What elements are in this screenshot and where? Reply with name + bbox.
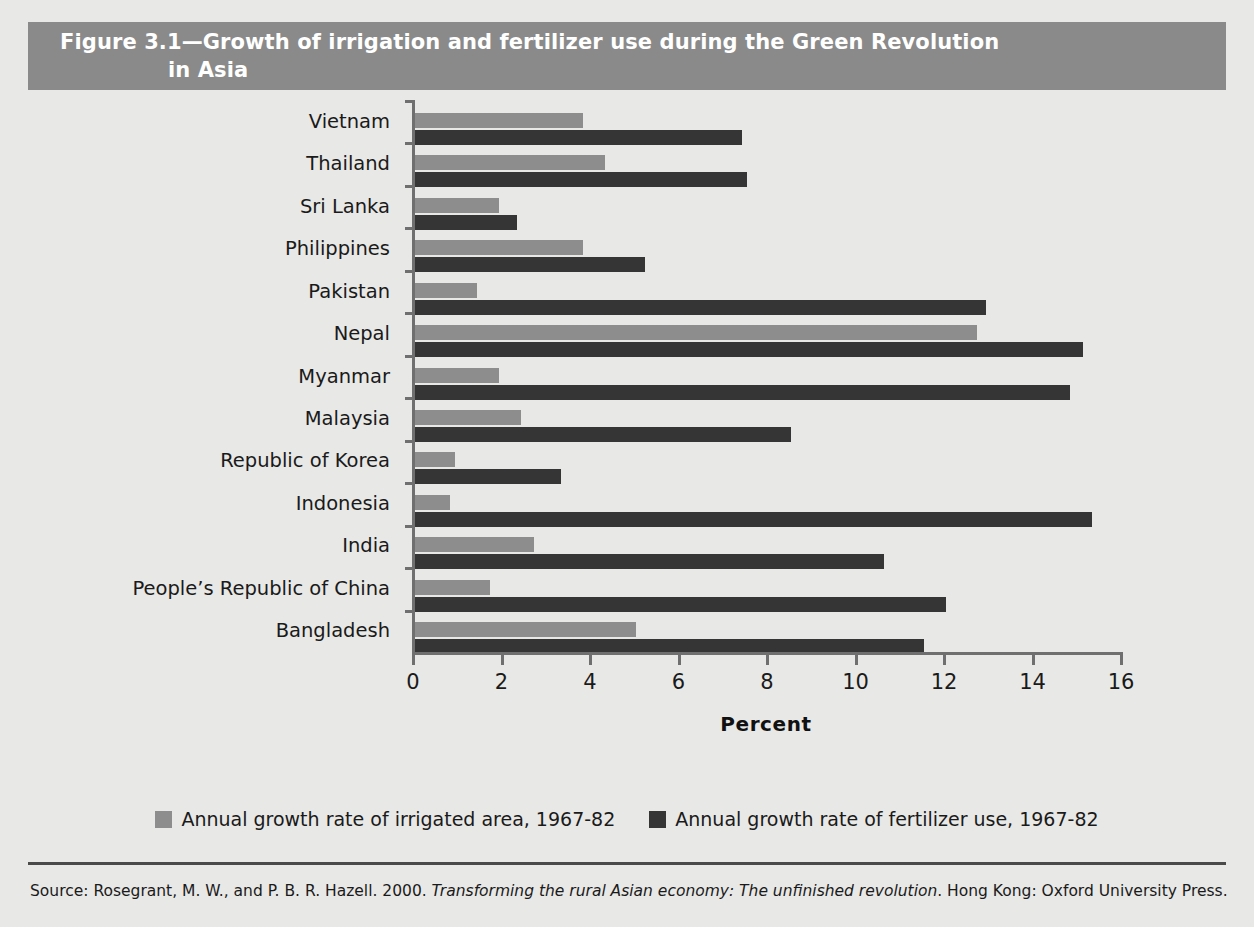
y-axis-tick — [405, 142, 415, 145]
source-note: Source: Rosegrant, M. W., and P. B. R. H… — [30, 880, 1230, 902]
bar-group — [415, 185, 1120, 227]
bar-irrigated — [415, 495, 450, 510]
y-axis-label: Sri Lanka — [0, 185, 404, 227]
legend-label: Annual growth rate of fertilizer use, 19… — [675, 808, 1098, 830]
bar-irrigated — [415, 622, 636, 637]
y-axis-label: Pakistan — [0, 270, 404, 312]
y-axis-tick — [405, 567, 415, 570]
x-axis-tick-label: 0 — [406, 670, 419, 694]
bar-group — [415, 270, 1120, 312]
bar-group — [415, 227, 1120, 269]
legend-label: Annual growth rate of irrigated area, 19… — [181, 808, 615, 830]
bar-irrigated — [415, 580, 490, 595]
figure-title-line1: Figure 3.1—Growth of irrigation and fert… — [60, 30, 999, 54]
y-axis-label: Malaysia — [0, 397, 404, 439]
x-axis-tick-label: 6 — [672, 670, 685, 694]
y-axis-tick — [405, 100, 415, 103]
bar-group — [415, 525, 1120, 567]
x-axis-tick-label: 8 — [760, 670, 773, 694]
figure-container: Figure 3.1—Growth of irrigation and fert… — [0, 0, 1254, 927]
bar-irrigated — [415, 113, 583, 128]
bar-group — [415, 440, 1120, 482]
y-axis-label: Nepal — [0, 312, 404, 354]
bar-group — [415, 567, 1120, 609]
figure-title-line2: in Asia — [60, 56, 999, 84]
y-axis-tick — [405, 227, 415, 230]
x-axis-tick — [678, 652, 681, 665]
x-axis-tick-label: 14 — [1019, 670, 1046, 694]
y-axis-label: Republic of Korea — [0, 440, 404, 482]
x-axis-tick — [1120, 652, 1123, 665]
x-axis-tick — [943, 652, 946, 665]
y-axis-label: Myanmar — [0, 355, 404, 397]
x-axis-tick-label: 2 — [495, 670, 508, 694]
bar-group — [415, 312, 1120, 354]
x-axis-tick-label: 16 — [1108, 670, 1135, 694]
x-axis-tick — [412, 652, 415, 665]
y-axis-label: Philippines — [0, 227, 404, 269]
y-axis-label: India — [0, 525, 404, 567]
x-axis-tick — [501, 652, 504, 665]
x-axis-tick-label: 10 — [842, 670, 869, 694]
bar-group — [415, 100, 1120, 142]
bars-container — [412, 100, 1120, 652]
y-axis-label: Thailand — [0, 142, 404, 184]
x-axis-tick-label: 12 — [931, 670, 958, 694]
page-title: Figure 3.1—Growth of irrigation and fert… — [28, 28, 1019, 85]
legend-swatch-fertilizer — [649, 811, 666, 828]
y-axis-tick — [405, 397, 415, 400]
bar-irrigated — [415, 198, 499, 213]
x-axis-tick-label: 4 — [583, 670, 596, 694]
y-axis-label: Bangladesh — [0, 610, 404, 652]
source-publication-title: Transforming the rural Asian economy: Th… — [432, 882, 938, 900]
y-axis-tick — [405, 482, 415, 485]
x-axis-tick — [855, 652, 858, 665]
y-axis-tick — [405, 355, 415, 358]
legend-swatch-irrigated — [155, 811, 172, 828]
bar-irrigated — [415, 283, 477, 298]
bar-irrigated — [415, 155, 605, 170]
y-axis-tick — [405, 185, 415, 188]
x-axis-tick — [766, 652, 769, 665]
x-axis-title: Percent — [412, 712, 1120, 736]
bar-group — [415, 397, 1120, 439]
bar-irrigated — [415, 537, 534, 552]
bar-group — [415, 355, 1120, 397]
bar-irrigated — [415, 452, 455, 467]
chart-plot-area: VietnamThailandSri LankaPhilippinesPakis… — [0, 100, 1254, 720]
legend-item: Annual growth rate of irrigated area, 19… — [155, 808, 615, 830]
y-axis-label: Vietnam — [0, 100, 404, 142]
figure-title-band: Figure 3.1—Growth of irrigation and fert… — [28, 22, 1226, 90]
y-axis-tick — [405, 312, 415, 315]
source-divider — [28, 862, 1226, 865]
bar-group — [415, 142, 1120, 184]
y-axis-label: Indonesia — [0, 482, 404, 524]
y-axis-tick — [405, 440, 415, 443]
y-axis-tick — [405, 610, 415, 613]
bar-irrigated — [415, 410, 521, 425]
source-line2: Oxford University Press. — [1042, 882, 1228, 900]
y-axis-label: People’s Republic of China — [0, 567, 404, 609]
source-prefix: Source: Rosegrant, M. W., and P. B. R. H… — [30, 882, 432, 900]
y-axis-category-labels: VietnamThailandSri LankaPhilippinesPakis… — [0, 100, 404, 652]
chart-legend: Annual growth rate of irrigated area, 19… — [0, 808, 1254, 830]
bar-irrigated — [415, 368, 499, 383]
bar-group — [415, 610, 1120, 652]
y-axis-tick — [405, 270, 415, 273]
bar-group — [415, 482, 1120, 524]
bar-irrigated — [415, 325, 977, 340]
source-suffix: . Hong Kong: — [937, 882, 1036, 900]
bar-irrigated — [415, 240, 583, 255]
legend-item: Annual growth rate of fertilizer use, 19… — [649, 808, 1098, 830]
x-axis-tick — [1032, 652, 1035, 665]
x-axis-tick — [589, 652, 592, 665]
y-axis-tick — [405, 525, 415, 528]
